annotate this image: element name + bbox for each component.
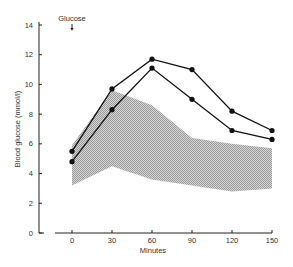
- data-point: [229, 128, 234, 133]
- y-tick-label: 8: [29, 110, 33, 119]
- data-point: [189, 97, 194, 102]
- y-tick-label: 12: [25, 50, 33, 59]
- x-tick-label: 30: [108, 236, 116, 245]
- y-tick-label: 0: [29, 229, 33, 238]
- data-point: [109, 86, 114, 91]
- x-axis-title: Minutes: [140, 246, 167, 255]
- data-point: [269, 128, 274, 133]
- down-arrow-head-icon: [70, 28, 73, 31]
- y-tick-label: 10: [25, 80, 33, 89]
- glucose-tolerance-chart: 024681012140306090120150MinutesBlood glu…: [0, 0, 293, 267]
- glucose-annotation: Glucose: [58, 14, 86, 23]
- y-tick-label: 4: [29, 169, 33, 178]
- y-tick-label: 6: [29, 139, 33, 148]
- data-point: [69, 149, 74, 154]
- data-point: [69, 159, 74, 164]
- y-tick-label: 2: [29, 199, 33, 208]
- x-tick-label: 90: [188, 236, 196, 245]
- data-point: [269, 137, 274, 142]
- data-point: [149, 65, 154, 70]
- x-tick-label: 120: [226, 236, 239, 245]
- data-point: [149, 57, 154, 62]
- data-point: [109, 107, 114, 112]
- x-tick-label: 60: [148, 236, 156, 245]
- y-tick-label: 14: [25, 21, 33, 30]
- y-axis-title: Blood glucose (mmol/l): [13, 90, 22, 167]
- data-point: [229, 109, 234, 114]
- data-point: [189, 67, 194, 72]
- x-tick-label: 0: [70, 236, 74, 245]
- x-tick-label: 150: [266, 236, 279, 245]
